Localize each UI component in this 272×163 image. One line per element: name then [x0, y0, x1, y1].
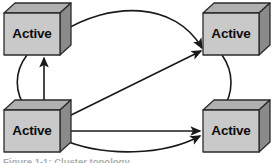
node-bottom-left[interactable]: Active [4, 100, 71, 152]
node-bottom-right[interactable]: Active [203, 100, 270, 152]
node-bottom-right-label: Active [211, 123, 251, 138]
node-bottom-left-side-face [60, 100, 71, 152]
diagram-canvas: ActiveActiveActiveActive Figure 1-1: Clu… [0, 0, 272, 163]
node-link-diagram: ActiveActiveActiveActive [0, 0, 272, 163]
connector-bottom-left-to-bottom-right-arc [61, 136, 200, 152]
node-top-right-label: Active [211, 26, 251, 41]
node-bottom-left-label: Active [12, 123, 52, 138]
node-top-right-side-face [259, 3, 270, 55]
figure-caption: Figure 1-1: Cluster topology [3, 156, 130, 163]
node-top-left-label: Active [12, 26, 52, 41]
connector-top-left-to-top-right [60, 11, 202, 48]
node-top-left-side-face [60, 3, 71, 55]
node-top-right[interactable]: Active [203, 3, 270, 55]
connector-bottom-left-to-top-right [61, 51, 201, 120]
node-top-left[interactable]: Active [4, 3, 71, 55]
node-bottom-right-side-face [259, 100, 270, 152]
